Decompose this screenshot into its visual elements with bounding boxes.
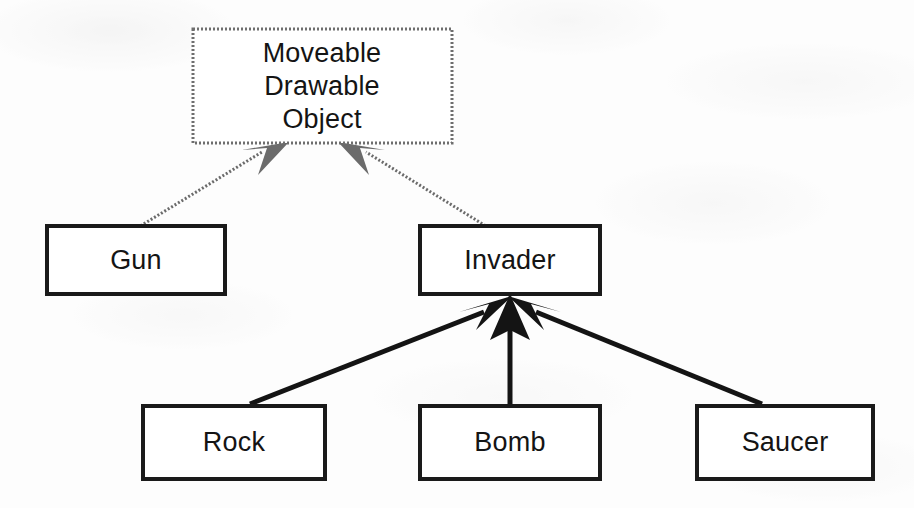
edge-line-saucer-to-invader <box>536 312 762 404</box>
class-node-gun[interactable]: Gun <box>47 226 225 294</box>
edge-line-gun-to-root <box>137 152 262 228</box>
class-node-bomb-label: Bomb <box>474 427 545 457</box>
arrowhead-gun-to-root <box>242 142 289 175</box>
class-node-saucer[interactable]: Saucer <box>697 406 873 479</box>
diagram-svg: Moveable Drawable Object Gun Invader Roc… <box>0 0 914 508</box>
class-node-rock[interactable]: Rock <box>143 406 325 479</box>
edge-invader-to-root <box>338 142 489 228</box>
class-node-invader-label: Invader <box>464 245 555 275</box>
class-node-rock-label: Rock <box>203 427 266 457</box>
class-node-root-line-2: Drawable <box>264 71 380 101</box>
class-node-bomb[interactable]: Bomb <box>420 406 600 479</box>
class-node-gun-label: Gun <box>110 245 162 275</box>
class-node-root-line-3: Object <box>282 104 362 134</box>
edge-line-rock-to-invader <box>250 312 484 404</box>
class-node-root[interactable]: Moveable Drawable Object <box>193 29 452 143</box>
class-node-saucer-label: Saucer <box>742 427 829 457</box>
class-node-root-line-1: Moveable <box>263 38 382 68</box>
edge-saucer-to-invader <box>508 296 762 404</box>
class-diagram-canvas: Moveable Drawable Object Gun Invader Roc… <box>0 0 914 508</box>
edge-gun-to-root <box>137 142 289 228</box>
class-node-invader[interactable]: Invader <box>420 226 600 294</box>
arrowhead-invader-to-root <box>338 142 385 175</box>
edge-line-invader-to-root <box>366 152 489 228</box>
edge-rock-to-invader <box>250 296 512 404</box>
